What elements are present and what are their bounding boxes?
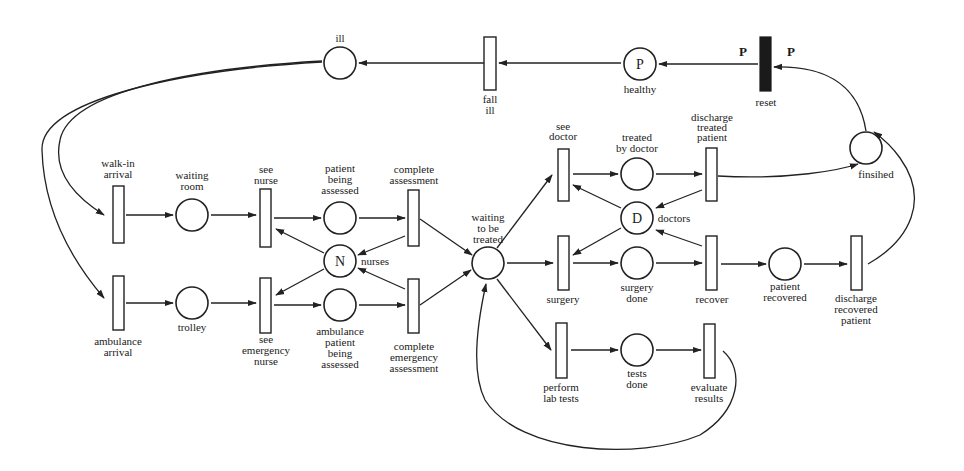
transition-fall-ill[interactable]: fall ill [483, 37, 498, 116]
token-count: D [632, 211, 642, 226]
transition-recover[interactable]: recover [696, 236, 729, 305]
transition-label: surgery [547, 293, 580, 305]
transition-see-doctor[interactable]: see doctor [549, 120, 577, 201]
place-label: trolley [178, 321, 207, 333]
place-doctors[interactable]: D doctors [621, 202, 690, 234]
transition-label: arrival [104, 346, 133, 358]
transition-complete-assessment[interactable]: complete assessment [390, 163, 439, 246]
transition-discharge-recovered-patient[interactable]: discharge recovered patient [834, 236, 878, 326]
place-label: done [626, 378, 648, 390]
arc [358, 236, 405, 255]
place-label: done [626, 292, 648, 304]
transition-label: recover [696, 293, 729, 305]
arc [573, 228, 621, 255]
transition-surgery[interactable]: surgery [547, 236, 580, 305]
transition-discharge-treated-patient[interactable]: discharge treated patient [691, 111, 733, 201]
place-ill[interactable]: ill [324, 32, 356, 79]
token-count: N [335, 254, 345, 269]
place-label: assessed [321, 184, 359, 196]
arc [420, 270, 471, 305]
place-treated-by-doctor[interactable]: treated by doctor [616, 131, 658, 190]
place-waiting-room[interactable]: waiting room [176, 169, 209, 231]
transition-label: nurse [254, 174, 278, 186]
place-label: finsihed [858, 168, 894, 180]
arc [656, 190, 702, 208]
transition-label: arrival [104, 168, 133, 180]
place-patient-being-assessed[interactable]: patient being assessed [321, 162, 359, 234]
place-healthy[interactable]: P healthy [624, 48, 657, 95]
transition-label: reset [756, 96, 777, 108]
arc [497, 175, 552, 248]
transition-label: patient [841, 314, 871, 326]
transition-walk-in-arrival[interactable]: walk-in arrival [101, 157, 135, 243]
transition-label: lab tests [543, 392, 579, 404]
arc [497, 279, 551, 350]
arc [276, 229, 324, 253]
place-patient-recovered[interactable]: patient recovered [763, 248, 807, 303]
place-finished[interactable]: finsihed [850, 132, 894, 180]
transition-label: results [695, 392, 724, 404]
arc [656, 230, 702, 246]
transition-complete-emergency-assessment[interactable]: complete emergency assessment [390, 279, 439, 374]
place-label: treated [473, 233, 503, 245]
transition-label: assessment [390, 174, 439, 186]
transition-evaluate-results[interactable]: evaluate results [691, 324, 728, 404]
place-label: room [180, 180, 204, 192]
place-ambulance-patient-being-assessed[interactable]: ambulance patient being assessed [316, 289, 364, 370]
token-count: P [636, 57, 644, 72]
transition-ambulance-arrival[interactable]: ambulance arrival [94, 276, 142, 358]
petri-net-diagram: P P ill P healthy finsihed waiting room … [0, 0, 964, 471]
arc [420, 219, 472, 255]
transition-label: ill [485, 104, 494, 116]
place-trolley[interactable]: trolley [176, 287, 208, 333]
place-label: assessed [321, 358, 359, 370]
place-label: doctors [658, 212, 690, 224]
transition-label: nurse [254, 355, 278, 367]
transition-perform-lab-tests[interactable]: perform lab tests [543, 323, 579, 404]
reset-weight-out: P [739, 44, 747, 59]
place-label: nurses [361, 255, 389, 267]
transition-label: doctor [549, 130, 577, 142]
arc [718, 164, 858, 177]
place-tests-done[interactable]: tests done [621, 334, 653, 390]
place-label: by doctor [616, 142, 658, 154]
place-surgery-done[interactable]: surgery done [621, 247, 654, 304]
place-label: recovered [763, 291, 807, 303]
arc [477, 284, 736, 449]
arc [358, 268, 405, 289]
transition-label: patient [697, 131, 727, 143]
place-label: healthy [624, 83, 657, 95]
arc [573, 185, 621, 208]
place-label: ill [335, 32, 344, 44]
transition-label: assessment [390, 362, 439, 374]
place-nurses[interactable]: N nurses [324, 245, 389, 277]
transition-reset[interactable]: reset [756, 37, 777, 108]
reset-weight-in: P [787, 44, 795, 59]
transition-see-nurse[interactable]: see nurse [254, 163, 278, 247]
arc-finished-to-reset [774, 67, 866, 131]
arc [276, 269, 324, 295]
